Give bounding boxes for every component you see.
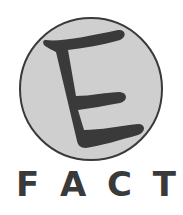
wordmark-letter: A	[60, 166, 86, 202]
brand-wordmark: F A C T	[16, 166, 176, 202]
wordmark-letter: F	[16, 166, 39, 202]
wordmark-letter: T	[153, 166, 176, 202]
wordmark-letter: C	[107, 166, 132, 202]
